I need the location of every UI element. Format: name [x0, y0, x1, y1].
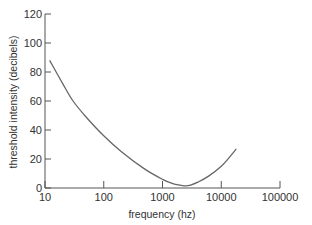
x-tick-label: 100000	[262, 191, 299, 203]
axes	[45, 14, 280, 188]
y-tick-label: 60	[30, 95, 42, 107]
x-tick-label: 1000	[150, 191, 174, 203]
y-tick-label: 40	[30, 124, 42, 136]
x-tick-label: 10	[39, 191, 51, 203]
x-tick-label: 100	[95, 191, 113, 203]
y-tick-label: 80	[30, 66, 42, 78]
y-tick-label: 20	[30, 153, 42, 165]
y-tick-label: 100	[24, 37, 42, 49]
threshold-curve	[50, 60, 237, 185]
x-axis-label: frequency (hz)	[128, 208, 195, 220]
x-axis-ticks: 10100100010000100000	[39, 181, 298, 203]
y-tick-label: 120	[24, 8, 42, 20]
y-axis-label: threshold intensity (decibels)	[7, 35, 19, 168]
x-tick-label: 10000	[206, 191, 237, 203]
threshold-chart: 020406080100120 10100100010000100000 fre…	[0, 0, 312, 225]
y-axis-ticks: 020406080100120	[24, 8, 51, 194]
